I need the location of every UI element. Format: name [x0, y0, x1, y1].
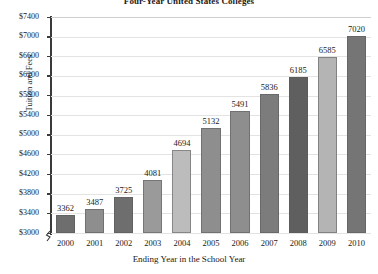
y-axis-tick-label: $4600 — [0, 149, 39, 158]
x-axis-label: Ending Year in the School Year — [0, 254, 378, 264]
bar[interactable] — [85, 209, 104, 233]
bar[interactable] — [143, 180, 162, 233]
bar-column[interactable]: 3487 — [85, 17, 104, 233]
bar[interactable] — [230, 111, 249, 233]
gridline — [51, 233, 371, 234]
y-axis-tick-label: $7400 — [0, 12, 39, 21]
axis-break-icon — [45, 230, 57, 242]
bar[interactable] — [201, 128, 220, 233]
bar-column[interactable]: 5132 — [201, 17, 220, 233]
bar[interactable] — [260, 94, 279, 233]
x-axis-tick-label: 2010 — [336, 238, 376, 248]
bar-chart: Four-Year United States Colleges Tuition… — [0, 0, 378, 274]
y-axis-label: Tuition and Fees — [24, 28, 34, 138]
bar-value-label: 5132 — [188, 116, 234, 126]
y-axis-tick-label: $3400 — [0, 208, 39, 217]
bar[interactable] — [172, 150, 191, 233]
y-axis-tick-label: $3000 — [0, 228, 39, 237]
bar[interactable] — [289, 77, 308, 233]
bar-value-label: 5836 — [246, 82, 292, 92]
y-axis-tick-label: $6200 — [0, 70, 39, 79]
bars-layer: 3362348737254081469451325491583661856585… — [51, 17, 371, 233]
bar-column[interactable]: 4081 — [143, 17, 162, 233]
bar[interactable] — [318, 57, 337, 233]
bar-column[interactable]: 7020 — [347, 17, 366, 233]
y-axis-tick-label: $5800 — [0, 90, 39, 99]
y-axis-tick-label: $6600 — [0, 51, 39, 60]
bar[interactable] — [114, 197, 133, 233]
bar-value-label: 4694 — [159, 138, 205, 148]
bar[interactable] — [347, 36, 366, 233]
y-axis-tick-label: $5400 — [0, 110, 39, 119]
bar-value-label: 6185 — [275, 65, 321, 75]
bar-value-label: 3725 — [101, 185, 147, 195]
bar-value-label: 3487 — [72, 197, 118, 207]
bar[interactable] — [56, 215, 75, 233]
y-axis-tick-label: $7000 — [0, 31, 39, 40]
bar-column[interactable]: 3725 — [114, 17, 133, 233]
y-axis-tick-label: $4200 — [0, 169, 39, 178]
bar-value-label: 5491 — [217, 99, 263, 109]
y-axis-tick-label: $3800 — [0, 188, 39, 197]
y-axis-tick-label: $5000 — [0, 129, 39, 138]
bar-value-label: 7020 — [333, 24, 378, 34]
bar-column[interactable]: 5836 — [260, 17, 279, 233]
chart-title: Four-Year United States Colleges — [0, 0, 378, 6]
bar-value-label: 6585 — [304, 45, 350, 55]
bar-value-label: 4081 — [130, 168, 176, 178]
bar-column[interactable]: 5491 — [230, 17, 249, 233]
bar-column[interactable]: 6585 — [318, 17, 337, 233]
